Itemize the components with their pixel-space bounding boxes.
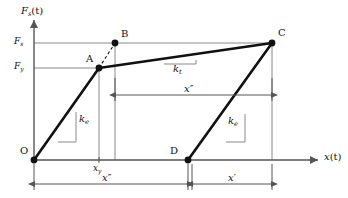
point-label-A: A [86, 54, 93, 64]
dimension-label-x1-bottom: x′ [226, 173, 238, 183]
point-A [96, 65, 103, 72]
slope-marker-ke-left [58, 112, 76, 142]
dim-mid-prime: ″ [190, 83, 194, 94]
point-O [31, 157, 38, 164]
y-tick-fy-sub: y [20, 65, 23, 72]
slope-markers [58, 60, 245, 142]
y-axis-tail: (t) [31, 5, 43, 16]
point-D [185, 157, 192, 164]
slope-label-ke-left: ke [79, 114, 89, 125]
kt-sub: t [179, 68, 182, 76]
point-label-D: D [170, 146, 178, 156]
point-label-C: C [278, 28, 286, 38]
slope-label-ke-right: ke [228, 116, 238, 127]
x-axis-tail: (t) [330, 151, 342, 162]
y-axis-base: F [21, 5, 28, 16]
ke-right-sub: e [234, 120, 238, 128]
figure-canvas: Fs(t) x(t) Fs Fy xy O A B C D ke kt ke x… [0, 0, 348, 198]
axes [34, 20, 318, 160]
dimension-label-x2-mid: x″ [182, 84, 195, 94]
dimension-label-x2-bottom: x″ [100, 173, 113, 183]
data-points [31, 40, 276, 164]
x-axis-title: x(t) [324, 152, 341, 162]
segment-O-A [34, 68, 99, 160]
segment-A-B [99, 43, 115, 68]
point-label-O: O [20, 146, 28, 156]
point-label-B: B [121, 29, 128, 39]
dim-bottom1-prime: ′ [234, 172, 236, 183]
y-tick-label-fs: Fs [14, 37, 23, 47]
ke-left-sub: e [85, 118, 89, 126]
slope-label-kt: kt [173, 64, 182, 75]
y-tick-fs-sub: s [20, 40, 23, 47]
y-tick-label-fy: Fy [14, 62, 24, 72]
y-axis-title: Fs(t) [21, 6, 43, 17]
dim-bottom2-prime: ″ [108, 172, 112, 183]
point-C [269, 40, 276, 47]
point-B [112, 40, 119, 47]
force-displacement-diagram [0, 0, 348, 198]
